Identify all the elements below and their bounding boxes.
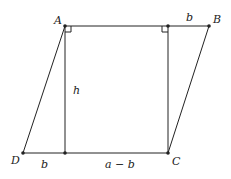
side-da (23, 26, 65, 153)
side-bc (168, 26, 209, 153)
label-bottom-b: b (41, 158, 48, 171)
label-a: A (53, 14, 62, 27)
label-c: C (172, 155, 181, 168)
diagram-canvas: A B C D b h b a − b (0, 0, 231, 179)
point-d (21, 151, 25, 155)
point-b (207, 24, 211, 28)
label-height-h: h (73, 84, 80, 97)
point-f (63, 151, 67, 155)
label-b: B (212, 13, 221, 26)
point-e (166, 24, 170, 28)
point-a (63, 24, 67, 28)
label-d: D (10, 154, 20, 167)
point-c (166, 151, 170, 155)
parallelogram-diagram: A B C D b h b a − b (0, 0, 231, 179)
label-top-b: b (186, 11, 193, 24)
label-bottom-a-minus-b: a − b (105, 158, 135, 171)
